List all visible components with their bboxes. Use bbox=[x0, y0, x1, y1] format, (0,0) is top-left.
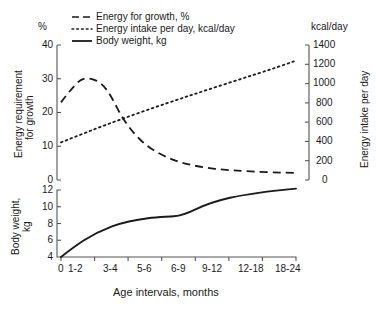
upper-left-tick-40: 40 bbox=[26, 40, 53, 50]
x-tick-0: 0 bbox=[58, 264, 64, 274]
upper-left-axis-title-line1: Energy requirement bbox=[14, 70, 24, 158]
lower-left-tick-6: 6 bbox=[26, 235, 53, 245]
x-tick-5-6: 5-6 bbox=[137, 264, 151, 274]
x-tick-18-24: 18-24 bbox=[275, 264, 301, 274]
series-energy-for-growth bbox=[61, 78, 296, 173]
chart-figure: Energy for growth, % Energy intake per d… bbox=[0, 0, 376, 313]
upper-left-tick-10: 10 bbox=[26, 141, 53, 151]
upper-right-tick-1400: 1400 bbox=[313, 40, 335, 50]
x-tick-9-12: 9-12 bbox=[202, 264, 222, 274]
legend-label-energy-growth: Energy for growth, % bbox=[96, 12, 189, 22]
upper-right-tick-800: 800 bbox=[316, 98, 333, 108]
lower-left-axis-title-line1: Body weight, bbox=[11, 198, 21, 255]
upper-right-tick-400: 400 bbox=[316, 136, 333, 146]
upper-left-axis-unit: % bbox=[38, 22, 47, 32]
data-curves bbox=[61, 61, 296, 257]
lower-left-tick-12: 12 bbox=[26, 185, 53, 195]
series-body-weight bbox=[61, 189, 296, 257]
x-tick-3-4: 3-4 bbox=[103, 264, 117, 274]
upper-panel-axes bbox=[57, 45, 309, 180]
lower-left-axis-title-line2: kg bbox=[22, 221, 32, 232]
lower-left-tick-4: 4 bbox=[26, 252, 53, 262]
upper-right-tick-1000: 1000 bbox=[313, 78, 335, 88]
x-axis-title: Age intervals, months bbox=[113, 287, 219, 298]
series-energy-intake bbox=[61, 61, 296, 143]
upper-right-axis-title: Energy intake per day bbox=[360, 71, 370, 168]
upper-right-tick-0: 0 bbox=[322, 175, 328, 185]
x-tick-1-2: 1-2 bbox=[68, 264, 82, 274]
lower-left-tick-10: 10 bbox=[26, 202, 53, 212]
upper-right-tick-600: 600 bbox=[316, 117, 333, 127]
legend-label-energy-intake: Energy intake per day, kcal/day bbox=[96, 24, 235, 34]
x-tick-12-18: 12-18 bbox=[238, 264, 264, 274]
x-tick-6-9: 6-9 bbox=[171, 264, 185, 274]
upper-right-tick-1200: 1200 bbox=[313, 59, 335, 69]
lower-panel-axes bbox=[57, 190, 296, 261]
legend-label-body-weight: Body weight, kg bbox=[96, 36, 167, 46]
upper-left-tick-30: 30 bbox=[26, 74, 53, 84]
upper-right-axis-unit: kcal/day bbox=[311, 22, 348, 32]
legend-swatches bbox=[72, 17, 92, 41]
upper-right-tick-200: 200 bbox=[316, 156, 333, 166]
upper-left-axis-title-line2: for growth bbox=[25, 96, 35, 140]
